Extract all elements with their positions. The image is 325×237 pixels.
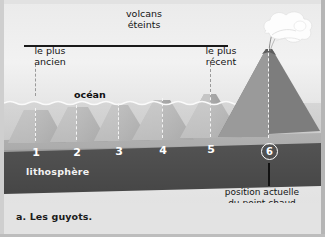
label-extinct-volcanoes: volcanséteints bbox=[91, 9, 197, 30]
seamount-number-3: 3 bbox=[111, 145, 127, 158]
label-lithosphere: lithosphère bbox=[26, 167, 89, 178]
label-extinct-volcanoes-line2: éteints bbox=[128, 19, 161, 30]
leader-line-5 bbox=[210, 92, 211, 137]
label-hotspot-line1: position actuelle bbox=[225, 187, 299, 197]
leader-line-4 bbox=[162, 98, 163, 138]
frame-right-border bbox=[321, 0, 325, 237]
label-oldest-line1: le plus bbox=[34, 45, 65, 56]
seamount-number-4: 4 bbox=[155, 144, 171, 157]
leader-line-1 bbox=[35, 108, 36, 141]
label-ocean: océan bbox=[74, 90, 106, 101]
seamount-number-2: 2 bbox=[69, 146, 85, 159]
label-extinct-volcanoes-line1: volcans bbox=[126, 8, 162, 19]
label-oldest-line2: ancien bbox=[34, 56, 66, 67]
hotspot-pointer-line bbox=[268, 163, 270, 186]
label-newest-line2: récent bbox=[206, 56, 236, 67]
frame-bottom-border bbox=[0, 234, 325, 237]
diagram-scene: volcanséteints le plusancien le plusréce… bbox=[4, 4, 321, 206]
leader-line-6 bbox=[268, 48, 269, 138]
label-oldest: le plusancien bbox=[13, 46, 87, 67]
label-newest: le plusrécent bbox=[184, 46, 258, 67]
caption-band: a. Les guyots. bbox=[4, 203, 321, 234]
seamount-number-6: 6 bbox=[261, 143, 278, 160]
seamount-number-5: 5 bbox=[203, 143, 219, 156]
seamount-number-1: 1 bbox=[28, 146, 44, 159]
figure-caption: a. Les guyots. bbox=[16, 211, 92, 222]
leader-line-3 bbox=[118, 103, 119, 139]
leader-line-2 bbox=[76, 105, 77, 140]
leader-line-newest bbox=[210, 64, 211, 92]
figure-guyots: volcanséteints le plusancien le plusréce… bbox=[0, 0, 325, 237]
label-newest-line1: le plus bbox=[205, 45, 236, 56]
leader-line-oldest bbox=[35, 64, 36, 96]
